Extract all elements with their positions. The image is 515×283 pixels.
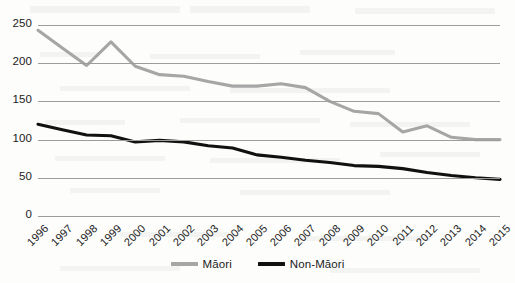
series-line-non-maori [38,124,500,179]
gridline [38,216,500,217]
legend-label: Māori [203,258,232,270]
y-axis-tick-label: 0 [2,208,32,220]
chart-legend: MāoriNon-Māori [0,258,515,270]
series-line-maori [38,30,500,139]
legend-item[interactable]: Non-Māori [258,258,345,270]
legend-swatch-icon [258,262,285,265]
y-axis-tick-label: 250 [2,17,32,29]
y-axis-tick-label: 50 [2,170,32,182]
y-axis-tick-label: 150 [2,93,32,105]
legend-label: Non-Māori [290,258,345,270]
gridline [38,63,500,64]
gridline [38,178,500,179]
line-chart: 050100150200250 199619971998199920002001… [0,0,515,283]
gridline [38,25,500,26]
y-axis-tick-label: 200 [2,55,32,67]
y-axis-tick-label: 100 [2,132,32,144]
legend-item[interactable]: Māori [171,258,232,270]
gridline [38,101,500,102]
gridline [38,140,500,141]
legend-swatch-icon [171,262,198,265]
